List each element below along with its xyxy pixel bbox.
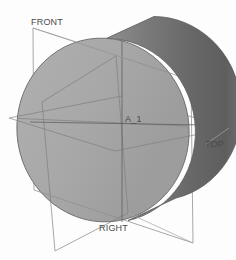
right-label-leader (128, 213, 193, 243)
datum-plane-label-right[interactable]: RIGHT (99, 223, 128, 233)
datum-axis-label-a1[interactable]: A_1 (125, 114, 142, 124)
datum-plane-label-front[interactable]: FRONT (31, 17, 63, 27)
cad-viewport[interactable]: FRONT TOP RIGHT A_1 (0, 0, 236, 260)
cad-model-scene[interactable] (0, 0, 236, 260)
datum-plane-label-top[interactable]: TOP (205, 139, 224, 149)
